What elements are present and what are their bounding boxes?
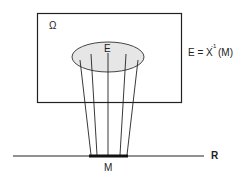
M-label: M (104, 163, 112, 173)
omega-label: Ω (49, 21, 56, 31)
equation-lhs: E = X (188, 48, 213, 58)
diagram-canvas (0, 0, 240, 180)
equation-rhs: (M) (218, 48, 233, 58)
R-label: R (211, 151, 218, 161)
equation-superscript: -1 (211, 43, 216, 49)
E-label: E (104, 44, 111, 54)
